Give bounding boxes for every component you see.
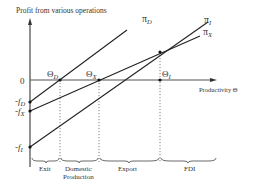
brace-exit (32, 158, 59, 163)
pi-d-line (30, 30, 127, 102)
y-axis-arrow-icon (28, 18, 32, 25)
pi-d-label: πD (142, 13, 152, 25)
region-fdi: FDI (184, 165, 196, 173)
pi-x-label: πX (203, 26, 213, 38)
brace-domestic (61, 158, 98, 163)
point-theta-x (97, 78, 100, 81)
point-theta-d (58, 78, 61, 81)
pi-i-line (30, 22, 208, 147)
region-domestic-line2: Production (63, 173, 94, 181)
pi-i-label: πI (204, 14, 212, 26)
brace-export (100, 158, 159, 163)
x-axis-arrow-icon (210, 78, 217, 82)
point-fx (28, 109, 31, 112)
theta-i-label: ΘI (162, 69, 172, 80)
region-domestic-line1: Domestic (65, 165, 92, 173)
theta-d-label: ΘD (47, 69, 59, 80)
brace-fdi (161, 158, 216, 163)
fi-label: -fI (15, 142, 24, 153)
region-export: Export (118, 165, 137, 173)
profit-diagram: Profit from various operations Productiv… (0, 0, 254, 184)
x-axis-title: Productivity Θ (199, 86, 238, 93)
theta-x-label: ΘX (86, 69, 98, 80)
point-fi (28, 145, 31, 148)
fx-label: -fX (15, 106, 26, 117)
y-axis-title: Profit from various operations (16, 6, 107, 15)
region-exit: Exit (39, 165, 51, 173)
point-fd (28, 100, 31, 103)
point-intersection (158, 50, 161, 53)
zero-label: 0 (20, 76, 25, 86)
diagram: Profit from various operations Productiv… (0, 0, 254, 184)
